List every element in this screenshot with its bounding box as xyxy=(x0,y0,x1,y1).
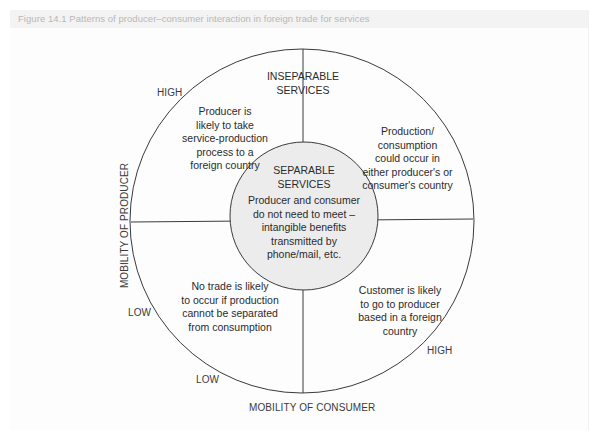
mobility-of-consumer-label: MOBILITY OF CONSUMER xyxy=(249,402,375,413)
producer-low-label: LOW xyxy=(128,307,151,318)
consumer-low-label: LOW xyxy=(196,374,219,385)
inseparable-services-label: INSEPARABLE SERVICES xyxy=(253,70,353,97)
consumer-high-label: HIGH xyxy=(427,345,452,356)
separable-services-text: Producer and consumer do not need to mee… xyxy=(239,194,369,262)
producer-high-label: HIGH xyxy=(157,87,182,98)
quadrant-top-right-text: Production/ consumption could occur in e… xyxy=(345,125,470,193)
quadrant-bottom-left-text: No trade is likely to occur if productio… xyxy=(170,280,290,334)
separable-services-title: SEPARABLE SERVICES xyxy=(254,164,354,191)
quadrant-bottom-right-text: Customer is likely to go to producer bas… xyxy=(345,284,455,338)
quadrant-top-left-text: Producer is likely to take service-produ… xyxy=(170,105,280,173)
mobility-of-producer-label: MOBILITY OF PRODUCER xyxy=(119,161,130,291)
